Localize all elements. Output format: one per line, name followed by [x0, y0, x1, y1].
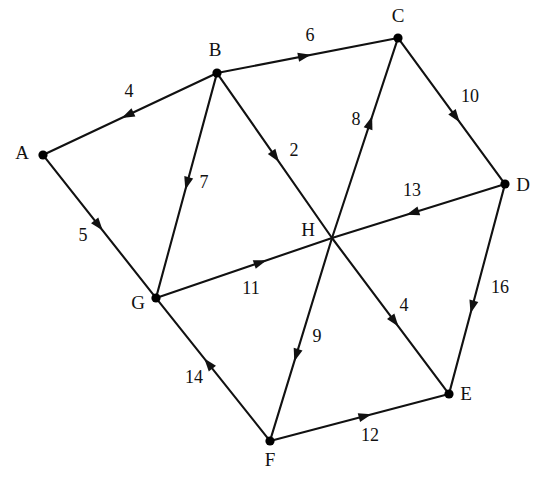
arrowhead-h-f	[294, 348, 303, 362]
edge-f-g	[158, 301, 267, 438]
node-dot-f	[265, 436, 274, 445]
node-dot-e	[444, 389, 453, 398]
edge-h-e	[332, 238, 447, 391]
edge-weight-b-c: 6	[306, 25, 315, 45]
edge-weight-b-a: 4	[125, 81, 134, 101]
edge-h-c	[332, 42, 397, 238]
arrowhead-b-g	[184, 176, 193, 190]
node-label-h: H	[301, 219, 315, 240]
node-dot-c	[393, 33, 402, 42]
edge-weight-h-e: 4	[400, 295, 409, 315]
edge-weight-b-h: 2	[290, 140, 299, 160]
edge-weight-d-e: 16	[491, 277, 509, 297]
edge-weight-a-g: 5	[79, 225, 88, 245]
arrowhead-b-a	[122, 108, 136, 118]
arrowhead-g-h	[253, 260, 267, 269]
edge-weight-h-c: 8	[352, 109, 361, 129]
node-dot-a	[38, 150, 47, 159]
arrowhead-d-h	[406, 206, 420, 215]
edges-layer	[45, 39, 503, 440]
node-label-g: G	[131, 292, 145, 313]
node-dot-g	[151, 293, 160, 302]
node-label-a: A	[15, 142, 29, 163]
arrowhead-c-d	[448, 109, 459, 122]
node-labels-layer: ABCDEFGH	[15, 5, 530, 470]
graph-canvas: ABCDEFGH 46105728131149161412	[0, 0, 547, 477]
weighted-digraph-figure: ABCDEFGH 46105728131149161412	[0, 0, 547, 477]
arrowhead-b-h	[268, 149, 279, 162]
edge-h-f	[271, 238, 332, 437]
node-label-f: F	[265, 449, 276, 470]
edge-labels-layer: 46105728131149161412	[79, 25, 510, 445]
arrowhead-h-c	[364, 116, 373, 130]
edge-weight-h-f: 9	[313, 326, 322, 346]
node-label-e: E	[460, 383, 472, 404]
arrowhead-d-e	[469, 300, 478, 314]
arrowhead-f-e	[358, 413, 372, 422]
arrowhead-b-c	[297, 53, 311, 62]
edge-weight-f-g: 14	[185, 367, 203, 387]
node-label-b: B	[209, 39, 222, 60]
edge-weight-b-g: 7	[200, 172, 209, 192]
arrowhead-h-e	[387, 313, 398, 326]
edge-weight-g-h: 11	[242, 278, 259, 298]
edge-weight-c-d: 10	[461, 86, 479, 106]
edge-weight-d-h: 13	[403, 180, 421, 200]
node-label-c: C	[392, 5, 405, 26]
node-label-d: D	[516, 174, 530, 195]
node-dot-d	[500, 179, 509, 188]
node-dot-b	[212, 68, 221, 77]
edge-weight-f-e: 12	[361, 425, 379, 445]
arrowheads-layer	[91, 53, 478, 422]
edge-c-d	[400, 41, 502, 181]
